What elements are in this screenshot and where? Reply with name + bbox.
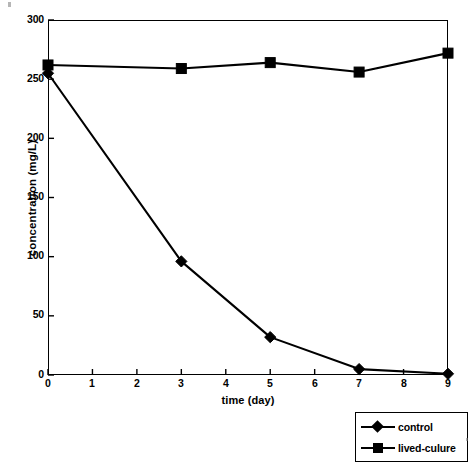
square-marker-icon (373, 443, 383, 453)
legend-swatch-lived-culure (361, 441, 395, 455)
scan-speckle (466, 438, 468, 441)
chart-figure: 300 250 200 150 100 50 0 0 1 2 3 4 5 6 7… (0, 0, 475, 471)
diamond-marker-icon (371, 420, 384, 433)
legend-entry-lived-culure: lived-culure (356, 437, 467, 458)
data-series-layer (42, 48, 453, 379)
chart-legend: control lived-culure (355, 412, 468, 462)
legend-label-lived-culure: lived-culure (395, 442, 456, 454)
legend-entry-control: control (356, 416, 467, 437)
scan-speckle (8, 2, 11, 7)
tick-marks (48, 20, 448, 375)
y-axis-title: concentration (mg/L) (26, 108, 38, 288)
scan-speckle (357, 384, 359, 386)
legend-label-control: control (395, 421, 433, 433)
legend-swatch-control (361, 420, 395, 434)
x-axis-title: time (day) (48, 394, 448, 406)
